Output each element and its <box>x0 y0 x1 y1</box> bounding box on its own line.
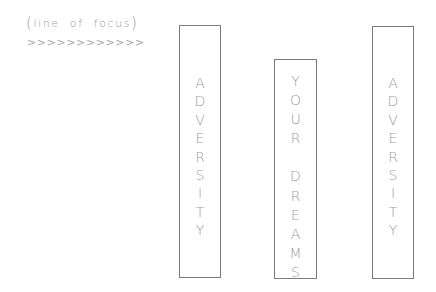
letter: Y <box>275 72 316 91</box>
letter: S <box>373 166 413 184</box>
your-dreams-box: Y O U R D R E A M S <box>274 59 317 279</box>
vertical-word: A D V E R S I T Y <box>180 74 220 240</box>
letter: T <box>373 203 413 221</box>
letter: Y <box>373 221 413 239</box>
caption-text: line of focus <box>33 17 131 30</box>
letter: O <box>275 91 316 110</box>
vertical-word: A D V E R S I T Y <box>373 74 413 240</box>
letter: E <box>373 129 413 147</box>
letter: I <box>373 184 413 202</box>
letter: R <box>275 129 316 148</box>
letter: R <box>180 148 220 166</box>
letter: Y <box>180 221 220 239</box>
letter: V <box>180 111 220 129</box>
letter: U <box>275 110 316 129</box>
adversity-box-left: A D V E R S I T Y <box>179 25 221 278</box>
adversity-box-right: A D V E R S I T Y <box>372 26 414 279</box>
letter: E <box>180 129 220 147</box>
vertical-word: Y O U R D R E A M S <box>275 72 316 282</box>
letter: E <box>275 206 316 225</box>
letter: S <box>180 166 220 184</box>
letter: V <box>373 111 413 129</box>
letter: A <box>373 74 413 92</box>
focus-arrows: >>>>>>>>>>>> <box>27 36 145 49</box>
letter-spacer <box>275 148 316 167</box>
letter: M <box>275 244 316 263</box>
letter: R <box>373 148 413 166</box>
letter: A <box>275 225 316 244</box>
letter: S <box>275 263 316 282</box>
letter: D <box>373 92 413 110</box>
line-of-focus-label: (line of focus) <box>26 14 139 32</box>
letter: T <box>180 203 220 221</box>
letter: I <box>180 184 220 202</box>
letter: D <box>180 92 220 110</box>
letter: D <box>275 167 316 186</box>
letter: A <box>180 74 220 92</box>
close-paren: ) <box>131 14 138 32</box>
letter: R <box>275 187 316 206</box>
